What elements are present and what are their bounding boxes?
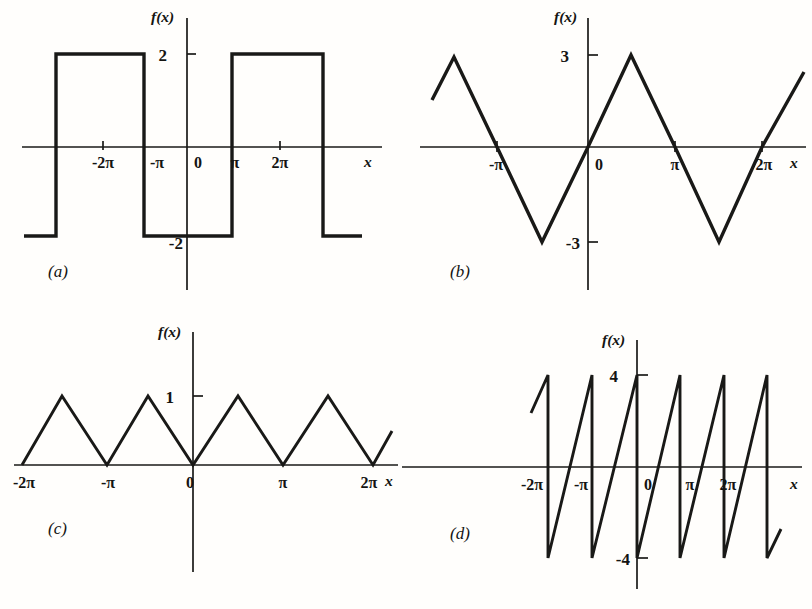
y-tick-label-1: 1 — [166, 388, 175, 407]
xaxis-label: x — [789, 475, 798, 492]
xaxis-label: x — [789, 154, 798, 171]
panel-a-plot: f(x) x 2 -2 -2π -π 0 π 2π (a) — [0, 0, 410, 305]
x-tick-label-zero: 0 — [194, 154, 202, 171]
x-tick-label-zero: 0 — [644, 476, 652, 493]
panel-d: f(x) x 4 -4 -2π -π 0 π 2π (d) — [402, 304, 812, 609]
square-wave-curve — [24, 54, 362, 236]
xaxis-label: x — [363, 153, 372, 170]
x-tick-label-negpi: -π — [101, 474, 115, 491]
x-tick-label-zero: 0 — [186, 474, 194, 491]
yaxis-label: f(x) — [554, 8, 577, 26]
panel-c: f(x) x 1 -2π -π 0 π 2π (c) — [0, 304, 410, 609]
y-tick-label-3: 3 — [561, 47, 570, 66]
panel-caption-d: (d) — [450, 524, 470, 543]
yaxis-label: f(x) — [602, 331, 625, 349]
yaxis-label: f(x) — [151, 8, 174, 26]
triangle-wave-curve — [432, 55, 804, 242]
x-tick-label-pi: π — [231, 154, 240, 171]
x-tick-label-2pi: 2π — [720, 476, 737, 493]
panel-b: f(x) x 3 -3 -π 0 π 2π (b) — [402, 0, 812, 305]
x-tick-label-pi: π — [279, 474, 288, 491]
x-tick-label-negpi: -π — [150, 154, 164, 171]
panel-caption-b: (b) — [450, 262, 470, 281]
x-tick-label-zero: 0 — [595, 156, 603, 173]
x-tick-label-negpi: -π — [574, 476, 588, 493]
x-tick-label-neg2pi: -2π — [92, 154, 114, 171]
x-tick-label-neg2pi: -2π — [521, 476, 543, 493]
panel-d-plot: f(x) x 4 -4 -2π -π 0 π 2π (d) — [402, 304, 812, 609]
y-tick-label-neg3: -3 — [566, 234, 580, 253]
x-tick-label-2pi: 2π — [361, 474, 378, 491]
figure-sheet: f(x) x 2 -2 -2π -π 0 π 2π (a) — [0, 0, 812, 609]
rectified-triangle-curve — [22, 396, 392, 465]
x-tick-label-negpi: -π — [489, 156, 503, 173]
yaxis-label: f(x) — [158, 323, 181, 341]
x-tick-label-neg2pi: -2π — [13, 474, 35, 491]
panel-caption-a: (a) — [48, 262, 68, 281]
xaxis-label: x — [384, 472, 393, 489]
x-tick-label-2pi: 2π — [756, 156, 773, 173]
panel-caption-c: (c) — [48, 519, 67, 538]
panel-c-plot: f(x) x 1 -2π -π 0 π 2π (c) — [0, 304, 410, 609]
y-tick-label-neg4: -4 — [616, 550, 631, 569]
panel-a: f(x) x 2 -2 -2π -π 0 π 2π (a) — [0, 0, 410, 305]
panel-b-plot: f(x) x 3 -3 -π 0 π 2π (b) — [402, 0, 812, 305]
y-tick-label-4: 4 — [610, 367, 619, 386]
x-tick-label-pi: π — [671, 156, 680, 173]
x-tick-label-pi: π — [686, 476, 695, 493]
x-tick-label-2pi: 2π — [272, 154, 289, 171]
y-tick-label-2: 2 — [159, 46, 168, 65]
y-tick-label-neg2: -2 — [169, 234, 183, 253]
